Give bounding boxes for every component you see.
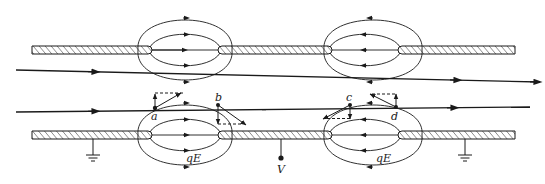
- terminal-dot-icon: [278, 155, 283, 160]
- label-voltage: V: [277, 163, 286, 176]
- bottom-plate-middle: [218, 131, 332, 139]
- bottom-electrode: [32, 131, 515, 139]
- voltage-terminal: [278, 139, 283, 161]
- label-c: c: [346, 91, 352, 104]
- vector-c: [323, 105, 350, 119]
- top-plate-left: [32, 46, 152, 54]
- top-electrode: [32, 46, 515, 54]
- bottom-plate-right: [398, 131, 515, 139]
- lower-beam: [16, 107, 530, 112]
- ground-icon-right: [458, 139, 472, 161]
- ground-icon-left: [86, 139, 100, 161]
- vector-a: [155, 93, 183, 108]
- top-plate-right: [398, 46, 515, 54]
- top-left-field-lines: [138, 18, 232, 82]
- label-b: b: [215, 91, 222, 104]
- label-qe-right: qE: [376, 152, 391, 165]
- point-d: [394, 105, 398, 109]
- upper-beam: [16, 70, 540, 82]
- label-a: a: [151, 110, 158, 123]
- field-diagram: a b c d qE qE V: [0, 0, 545, 184]
- diagram-canvas: a b c d qE qE V: [0, 0, 545, 184]
- top-plate-middle: [218, 46, 332, 54]
- bottom-plate-left: [32, 131, 152, 139]
- label-qe-left: qE: [186, 152, 201, 165]
- label-d: d: [391, 110, 398, 123]
